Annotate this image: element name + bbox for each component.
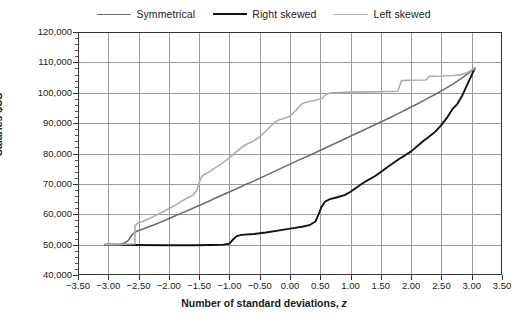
legend-swatch-icon: [213, 13, 247, 15]
y-axis-tick-label: 40,000: [18, 270, 72, 280]
legend-swatch-icon: [334, 14, 368, 15]
y-axis-tick-label: 90,000: [18, 118, 72, 128]
y-axis-tick-label: 100,000: [18, 88, 72, 98]
x-axis-tick-label: 2.00: [402, 281, 421, 291]
x-axis-tick-label: −3.50: [66, 281, 90, 291]
x-axis-tick-label: 0.50: [311, 281, 330, 291]
y-axis-tick-label: 60,000: [18, 209, 72, 219]
x-axis-title-variable: z: [342, 297, 347, 309]
legend-item-right-skewed: Right skewed: [213, 9, 316, 20]
y-axis-tick: [73, 275, 78, 276]
legend-label: Right skewed: [252, 9, 316, 20]
x-axis-title: Number of standard deviations, z: [0, 297, 528, 309]
y-axis-tick-label: 80,000: [18, 149, 72, 159]
x-axis-tick-label: −1.00: [217, 281, 241, 291]
x-axis-tick-label: 2.50: [432, 281, 451, 291]
x-axis-tick-label: −2.50: [127, 281, 151, 291]
x-axis-tick-label: −1.50: [187, 281, 211, 291]
x-axis-tick-label: −0.50: [248, 281, 272, 291]
y-axis-tick-label: 110,000: [18, 57, 72, 67]
y-axis-tick-label: 50,000: [18, 240, 72, 250]
legend-swatch-icon: [97, 14, 131, 15]
salary-ogive-chart: SymmetricalRight skewedLeft skewed Salar…: [0, 0, 528, 322]
x-axis-title-main: Number of standard deviations,: [181, 297, 339, 309]
legend-label: Left skewed: [373, 9, 430, 20]
x-axis-tick-label: 3.00: [462, 281, 481, 291]
chart-legend: SymmetricalRight skewedLeft skewed: [0, 6, 528, 22]
x-axis-tick-label: 1.50: [372, 281, 391, 291]
x-axis-tick-label: 3.50: [493, 281, 512, 291]
plot-frame: [78, 32, 502, 275]
y-axis-tick-label: 70,000: [18, 179, 72, 189]
x-axis-tick-label: −2.00: [157, 281, 181, 291]
plot-area: [78, 32, 502, 275]
x-axis-tick-label: 0.00: [281, 281, 300, 291]
legend-label: Symmetrical: [136, 9, 195, 20]
y-axis-tick-label: 120,000: [18, 27, 72, 37]
legend-item-symmetrical: Symmetrical: [97, 9, 195, 20]
y-axis-title: Salaries $US: [0, 92, 4, 156]
x-axis-tick-label: −3.00: [96, 281, 120, 291]
x-axis-tick-label: 1.00: [341, 281, 360, 291]
legend-item-left-skewed: Left skewed: [334, 9, 430, 20]
